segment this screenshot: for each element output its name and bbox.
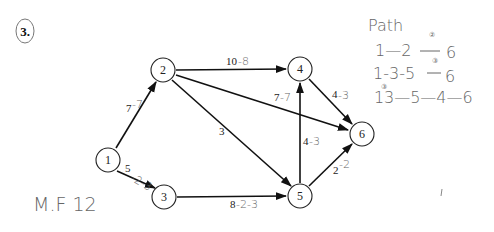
svg-text:-3: -3: [338, 89, 349, 102]
svg-text:2: 2: [160, 63, 166, 77]
svg-text:3.: 3.: [20, 24, 30, 39]
svg-text:-8: -8: [238, 55, 249, 68]
stray-mark: [441, 189, 442, 196]
node-1: 1: [96, 148, 120, 172]
svg-text:-3: -3: [309, 135, 320, 148]
path-annotations: Path 1—2 ② 6 1-3-5 ③ 6 1 ③ 3—5—4—6: [368, 16, 473, 107]
network-diagram: 3. 7 -7 5 -2-3 10 -8 7 -7 3 8 -2-3 4 -3 …: [0, 0, 494, 232]
node-2: 2: [151, 58, 175, 82]
svg-text:2: 2: [333, 164, 339, 176]
edge-label-2-4: 10 -8: [226, 55, 249, 68]
edge-3-5: [177, 196, 286, 197]
svg-text:4: 4: [297, 62, 303, 76]
edge-label-4-6: 4 -3: [332, 88, 349, 102]
node-5: 5: [288, 184, 312, 208]
path-title: Path: [368, 16, 403, 35]
node-6: 6: [350, 122, 374, 146]
max-flow-annotation: M.F 12: [33, 193, 97, 215]
svg-text:5: 5: [297, 189, 303, 203]
svg-text:-2: -2: [339, 158, 350, 171]
svg-text:10: 10: [226, 55, 238, 67]
svg-text:5: 5: [125, 162, 131, 174]
edge-label-2-6: 7 -7: [274, 91, 291, 104]
edge-label-2-5: 3: [219, 125, 225, 137]
path-2-flow: ③: [432, 57, 438, 65]
path-3-end: 3—5—4—6: [384, 88, 473, 107]
svg-text:-2-3: -2-3: [129, 171, 154, 193]
svg-text:3: 3: [161, 190, 167, 204]
svg-text:-7: -7: [280, 91, 291, 104]
edge-label-1-3: 5 -2-3: [125, 162, 154, 194]
svg-text:1: 1: [105, 153, 111, 167]
edge-1-2: [116, 82, 156, 148]
path-2-end: 6: [445, 67, 455, 86]
svg-text:3: 3: [219, 125, 225, 137]
edge-label-3-5: 8 -2-3: [230, 198, 258, 211]
edge-2-4: [176, 69, 286, 70]
node-3: 3: [152, 185, 176, 209]
node-4: 4: [288, 57, 312, 81]
edge-2-6: [176, 75, 348, 130]
path-2-start: 1-3-5: [373, 64, 415, 83]
path-1-end: 6: [446, 43, 456, 62]
problem-number: 3.: [16, 19, 34, 43]
edge-label-1-2: 7 -7: [126, 98, 143, 114]
path-1-start: 1—2: [375, 41, 411, 60]
svg-text:6: 6: [359, 127, 365, 141]
svg-text:-2-3: -2-3: [236, 198, 258, 211]
svg-text:-7: -7: [132, 98, 143, 111]
edge-label-5-4: 4 -3: [303, 135, 320, 148]
path-1-flow: ②: [429, 31, 435, 39]
